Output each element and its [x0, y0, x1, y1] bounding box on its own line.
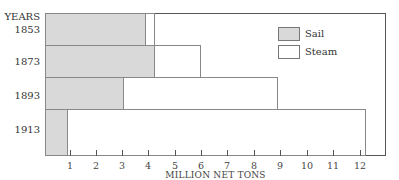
x-tick	[227, 150, 228, 156]
bar-sail-1913	[45, 109, 68, 156]
x-tick	[201, 150, 202, 156]
x-tick	[360, 150, 361, 156]
y-axis-title: YEARS	[0, 11, 40, 22]
year-label-1873: 1873	[0, 56, 40, 67]
bar-sail-1893	[45, 77, 124, 110]
x-tick	[70, 150, 71, 156]
legend-swatch-sail	[278, 27, 300, 41]
x-tick	[148, 150, 149, 156]
legend-label-steam: Steam	[305, 46, 337, 57]
bar-sail-1853	[45, 13, 146, 46]
legend-swatch-steam	[278, 45, 300, 59]
legend-label-sail: Sail	[305, 28, 324, 39]
year-label-1853: 1853	[0, 24, 40, 35]
bar-steam-1913	[45, 109, 366, 156]
x-tick	[175, 150, 176, 156]
x-tick	[307, 150, 308, 156]
x-tick	[96, 150, 97, 156]
x-axis-title: MILLION NET TONS	[45, 170, 386, 180]
x-tick	[280, 150, 281, 156]
x-tick	[333, 150, 334, 156]
year-label-1913: 1913	[0, 124, 40, 135]
year-label-1893: 1893	[0, 90, 40, 101]
bar-sail-1873	[45, 45, 155, 78]
x-tick	[254, 150, 255, 156]
x-tick	[122, 150, 123, 156]
